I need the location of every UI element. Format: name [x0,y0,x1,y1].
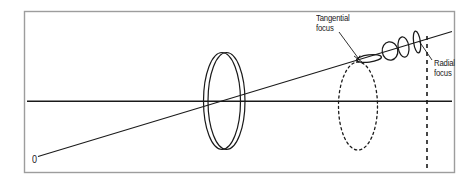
origin-label: 0 [32,155,37,166]
figure-container: Tangentialfocus Radialfocus 0 [0,0,474,183]
radial-focus-label: Radialfocus [434,59,455,78]
origin-label-text: 0 [32,154,37,165]
radial-focus-label-line1: Radial [434,58,455,68]
tangential-focus-label: Tangentialfocus [316,14,350,33]
radial-focus-label-line2: focus [434,68,452,78]
tangential-focus-label-line1: Tangential [316,13,350,23]
tangential-focus-label-line2: focus [316,23,334,33]
astigmatism-diagram [0,0,474,183]
figure-frame [25,12,455,173]
